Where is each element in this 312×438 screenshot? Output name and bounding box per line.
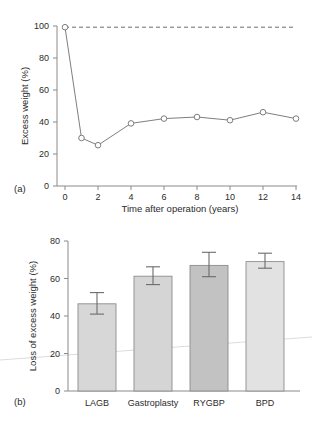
panel-b-category-rygbp: RYGBP	[193, 398, 224, 408]
panel-b-svg-main: 80 60 40 20 0	[0, 215, 312, 438]
panel-b-category-lagb: LAGB	[85, 398, 109, 408]
panel-b-yticklabel-0: 0	[55, 386, 60, 396]
panel-a-xticklabel-12: 12	[258, 192, 268, 202]
panel-a-xticklabel-8: 8	[194, 192, 199, 202]
panel-a-yticklabel-20: 20	[39, 149, 49, 159]
bar-bpd	[246, 262, 284, 391]
panel-a-yticklabel-40: 40	[39, 117, 49, 127]
panel-a-yticklabel-0: 0	[44, 181, 49, 191]
panel-a-xticklabel-6: 6	[161, 192, 166, 202]
panel-a-yticklabel-100: 100	[34, 21, 49, 31]
panel-a-point-0	[62, 24, 68, 30]
panel-b-yticklabel-80: 80	[50, 236, 60, 246]
panel-a-y-ticks	[53, 26, 57, 186]
bar-rygbp	[190, 265, 228, 391]
panel-a-point-14	[293, 116, 299, 122]
panel-a-x-ticks	[65, 186, 296, 190]
panel-a-x-axis-label: Time after operation (years)	[122, 203, 239, 214]
panel-a-svg: 100 80 60 40 20 0 0 2 4 6 8 10	[0, 0, 312, 215]
bar-gastroplasty	[134, 276, 172, 391]
panel-a-point-1	[79, 135, 85, 141]
panel-b-category-bpd: BPD	[256, 398, 275, 408]
panel-a-point-6	[161, 116, 167, 122]
panel-a-point-12	[260, 109, 266, 115]
panel-b-yticklabel-60: 60	[50, 274, 60, 284]
panel-a-yticklabel-80: 80	[39, 53, 49, 63]
panel-b-y-axis-label: Loss of excess weight (%)	[27, 261, 38, 371]
panel-b-y-ticks	[64, 241, 68, 391]
panel-a-point-8	[194, 114, 200, 120]
panel-a-series-line	[65, 27, 296, 145]
panel-a-data-markers	[62, 24, 299, 148]
bar-lagb	[78, 304, 116, 391]
panel-b-tag: (b)	[14, 396, 26, 407]
panel-a-point-2	[95, 142, 101, 148]
panel-a-xticklabel-0: 0	[62, 192, 67, 202]
panel-a-line-chart: 100 80 60 40 20 0 0 2 4 6 8 10	[0, 0, 312, 215]
panel-a-tag: (a)	[14, 183, 26, 194]
panel-a-y-axis-label: Excess weight (%)	[19, 67, 30, 145]
panel-a-xticklabel-14: 14	[291, 192, 301, 202]
panel-b-yticklabel-20: 20	[50, 349, 60, 359]
panel-a-yticklabel-60: 60	[39, 85, 49, 95]
panel-a-xticklabel-4: 4	[128, 192, 133, 202]
panel-b-yticklabel-40: 40	[50, 311, 60, 321]
panel-b-category-gastroplasty: Gastroplasty	[128, 398, 179, 408]
figure-panels: 100 80 60 40 20 0 0 2 4 6 8 10	[0, 0, 312, 438]
panel-a-point-10	[227, 117, 233, 123]
panel-a-xticklabel-10: 10	[225, 192, 235, 202]
panel-b-bar-chart: 80 60 40 20 0	[0, 215, 312, 438]
panel-a-point-4	[128, 121, 134, 127]
panel-a-xticklabel-2: 2	[95, 192, 100, 202]
